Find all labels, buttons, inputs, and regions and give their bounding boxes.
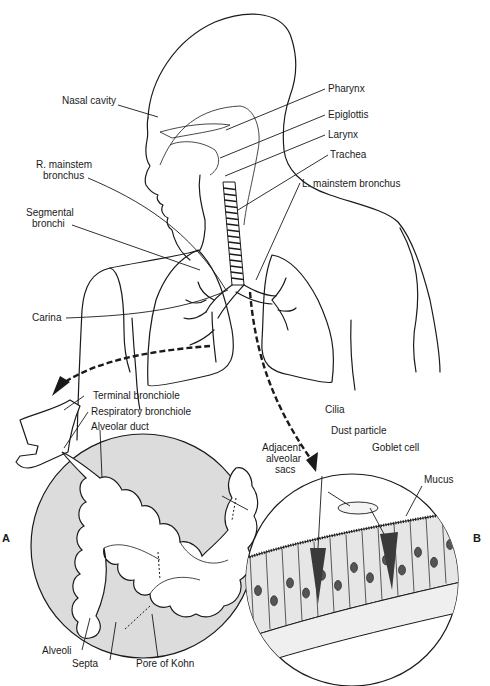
left-lung [262, 255, 334, 383]
cell-nucleus [463, 550, 470, 560]
cell-nucleus [431, 557, 438, 567]
panel-label-a: A [2, 532, 10, 544]
label-mucus: Mucus [424, 474, 453, 485]
leader-pharynx [226, 89, 325, 130]
cell-nucleus [399, 565, 406, 575]
left-bronchi [272, 278, 296, 330]
right-lower-bronchi [184, 312, 216, 362]
label-epiglottis: Epiglottis [328, 109, 369, 120]
right-lung [148, 250, 234, 386]
trachea [223, 182, 244, 285]
label-r-mainstem-line2: bronchus [43, 170, 84, 181]
panel-a-inset [16, 400, 258, 658]
right-arm [400, 228, 418, 372]
leader-epiglottis [220, 115, 325, 158]
label-cilia: Cilia [325, 404, 345, 415]
panel-label-b: B [473, 532, 481, 544]
leader-larynx [225, 135, 325, 176]
cell-nucleus [287, 578, 294, 588]
label-dust-particle: Dust particle [331, 425, 387, 436]
label-l-mainstem-bronchus: L. mainstem bronchus [302, 178, 400, 189]
label-goblet-cell: Goblet cell [372, 442, 419, 453]
torso-right-line [351, 320, 355, 390]
label-septa: Septa [72, 658, 99, 669]
body-outline [77, 14, 440, 440]
respiratory-diagram: Nasal cavity Pharynx Epiglottis Larynx T… [0, 0, 490, 686]
label-terminal-bronchiole: Terminal bronchiole [93, 390, 180, 401]
arrow-to-panel-b [250, 292, 310, 458]
label-alveolar-duct: Alveolar duct [91, 421, 149, 432]
label-carina: Carina [32, 312, 62, 323]
cell-nucleus [351, 563, 358, 573]
cell-nucleus [271, 596, 278, 606]
right-arm-inner [110, 268, 130, 372]
tongue [170, 142, 219, 175]
label-adjacent-line1: Adjacent [262, 442, 301, 453]
panel-b-inset [240, 474, 470, 686]
label-nasal-cavity: Nasal cavity [62, 95, 116, 106]
cell-nucleus [255, 586, 262, 596]
arrow-head-a [52, 376, 70, 396]
label-adjacent-line3: sacs [275, 464, 296, 475]
face-profile [145, 118, 190, 260]
label-pore-of-kohn: Pore of Kohn [136, 658, 194, 669]
label-segmental-line1: Segmental [26, 207, 74, 218]
right-upper-bronchi [186, 282, 214, 303]
label-segmental-line2: bronchi [32, 218, 65, 229]
cell-nucleus [335, 580, 342, 590]
label-pharynx: Pharynx [328, 83, 365, 94]
neck-left [199, 175, 205, 250]
label-alveoli: Alveoli [42, 645, 71, 656]
palate [160, 124, 230, 138]
label-adjacent-line2: alveolar [266, 453, 302, 464]
cell-nucleus [303, 588, 310, 598]
label-larynx: Larynx [328, 129, 358, 140]
label-respiratory-bronchiole: Respiratory bronchiole [91, 406, 191, 417]
label-r-mainstem-line1: R. mainstem [36, 159, 92, 170]
cell-nucleus [415, 547, 422, 557]
label-trachea: Trachea [330, 149, 367, 160]
cell-nucleus [367, 573, 374, 583]
leader-nasal-cavity [118, 105, 158, 117]
cell-wall [458, 510, 462, 579]
